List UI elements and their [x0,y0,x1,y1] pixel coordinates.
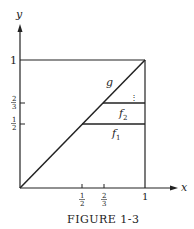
curve-label-f2: f2 [118,107,128,122]
y-axis-arrow-icon [18,24,23,32]
y-tick-label-1-2-den: 2 [12,124,16,132]
y-axis-label: y [15,8,23,21]
x-tick-label-2-3-num: 2 [102,192,106,200]
x-axis-arrow-icon [170,186,178,191]
x-tick-label-1: 1 [142,191,148,202]
y-tick-label-1: 1 [10,54,17,67]
x-tick-label-2-3-den: 3 [102,200,106,208]
figure-caption: FIGURE 1-3 [67,213,140,226]
y-tick-label-1-2-num: 1 [12,116,16,124]
y-tick-label-2-3-num: 2 [12,95,16,103]
x-tick-label-1-2-den: 2 [80,200,84,208]
curve-label-f1: f1 [111,127,121,142]
x-tick-label-1-2-num: 1 [80,192,84,200]
curve-label-g: g [106,76,113,89]
x-axis-label: x [181,181,188,194]
ellipsis-marker: ⋮ [130,93,138,102]
y-tick-label-2-3-den: 3 [12,103,16,111]
figure-canvas: y x 1 2 3 1 2 1 2 2 3 1 g f2 f1 ⋮ FIGURE… [0,0,194,229]
